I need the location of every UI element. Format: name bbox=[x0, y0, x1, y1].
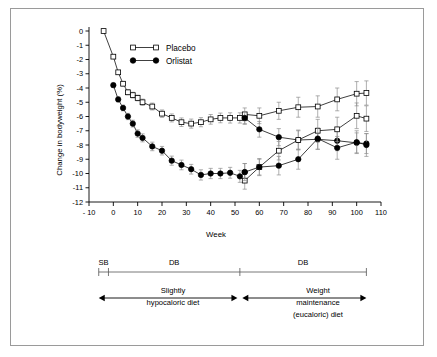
series-placebo-placebo-year-2 bbox=[242, 81, 368, 124]
series-orlistat-orlistat-year-2 bbox=[242, 128, 369, 181]
data-point bbox=[160, 111, 165, 116]
data-point bbox=[189, 167, 194, 172]
data-point bbox=[130, 121, 135, 126]
data-point bbox=[208, 171, 213, 176]
y-tick-label: -10 bbox=[72, 169, 83, 178]
data-point bbox=[116, 70, 121, 75]
x-tick-label: 70 bbox=[280, 208, 288, 217]
x-axis-label: Week bbox=[206, 230, 226, 239]
diet-right-line3: (eucaloric) diet bbox=[293, 310, 344, 319]
diet-left-line2: hypocaloric diet bbox=[147, 298, 201, 307]
data-point bbox=[335, 127, 340, 132]
data-point bbox=[159, 148, 164, 153]
x-tick-labels: - 100102030405060708090100110 bbox=[83, 202, 387, 217]
phase-label-db-2: DB bbox=[298, 258, 309, 267]
y-tick-labels: 0-1-2-3-4-5-6-7-8-9-10-11-12 bbox=[72, 27, 89, 207]
data-point bbox=[276, 163, 281, 168]
x-tick-label: 90 bbox=[328, 208, 336, 217]
data-point bbox=[354, 91, 359, 96]
data-point bbox=[140, 135, 145, 140]
data-point bbox=[140, 100, 145, 105]
x-tick-label: 20 bbox=[158, 208, 166, 217]
data-point bbox=[237, 174, 242, 179]
diet-right-line1: Weight bbox=[306, 286, 330, 295]
data-point bbox=[189, 121, 194, 126]
data-point bbox=[364, 116, 369, 121]
data-point bbox=[276, 108, 281, 113]
y-tick-label: -9 bbox=[76, 155, 83, 164]
y-tick-label: -3 bbox=[76, 69, 83, 78]
phase-label-sb-0: SB bbox=[99, 258, 109, 267]
legend-marker-placebo-2 bbox=[154, 45, 159, 50]
diet-left-line1: Slightly bbox=[161, 286, 186, 295]
data-point bbox=[354, 113, 359, 118]
data-point bbox=[242, 169, 247, 174]
x-tick-label: 50 bbox=[231, 208, 239, 217]
legend-marker-orlistat bbox=[130, 58, 136, 64]
chart-legend: Placebo Orlistat bbox=[130, 44, 196, 66]
x-tick-label: 30 bbox=[182, 208, 190, 217]
data-point bbox=[121, 81, 126, 86]
data-point bbox=[101, 29, 106, 34]
data-point bbox=[228, 116, 233, 121]
data-point bbox=[364, 142, 369, 147]
data-point bbox=[150, 144, 155, 149]
data-point bbox=[315, 136, 320, 141]
data-point bbox=[296, 138, 301, 143]
data-point bbox=[135, 131, 140, 136]
y-axis-label: Change in bodyweight (%) bbox=[55, 84, 64, 176]
y-tick-label: -11 bbox=[73, 183, 83, 192]
y-tick-label: -12 bbox=[72, 198, 83, 207]
y-tick-label: -6 bbox=[76, 112, 83, 121]
diet-right-line2: maintenance bbox=[296, 298, 339, 307]
data-point bbox=[169, 158, 174, 163]
data-point bbox=[179, 162, 184, 167]
phase-label-db-1: DB bbox=[169, 258, 180, 267]
x-tick-label: - 10 bbox=[83, 208, 96, 217]
chart-series-group bbox=[101, 29, 369, 190]
data-point bbox=[257, 113, 262, 118]
data-point bbox=[198, 172, 203, 177]
legend-label-placebo: Placebo bbox=[166, 44, 196, 53]
data-point bbox=[135, 96, 140, 101]
data-point bbox=[125, 114, 130, 119]
data-point bbox=[179, 120, 184, 125]
data-point bbox=[130, 93, 135, 98]
x-tick-label: 0 bbox=[111, 208, 115, 217]
data-point bbox=[218, 116, 223, 121]
data-point bbox=[237, 116, 242, 121]
legend-marker-placebo bbox=[131, 45, 136, 50]
data-point bbox=[335, 97, 340, 102]
legend-marker-orlistat-2 bbox=[153, 58, 159, 64]
data-point bbox=[111, 54, 116, 59]
legend-label-orlistat: Orlistat bbox=[166, 57, 193, 66]
chart-axes bbox=[89, 27, 381, 202]
data-point bbox=[208, 117, 213, 122]
data-point bbox=[335, 145, 340, 150]
y-tick-label: -1 bbox=[76, 41, 83, 50]
x-tick-label: 40 bbox=[207, 208, 215, 217]
data-point bbox=[296, 157, 301, 162]
figure-stage: Change in bodyweight (%) 0-1-2-3-4-5-6-7… bbox=[0, 0, 437, 357]
x-tick-label: 100 bbox=[350, 208, 362, 217]
data-point bbox=[354, 139, 359, 144]
y-tick-label: -5 bbox=[76, 98, 83, 107]
data-point bbox=[315, 104, 320, 109]
y-tick-label: -8 bbox=[76, 141, 83, 150]
y-tick-label: -2 bbox=[76, 55, 83, 64]
y-tick-label: 0 bbox=[79, 27, 83, 36]
data-point bbox=[218, 171, 223, 176]
data-point bbox=[257, 127, 262, 132]
weight-change-chart: Change in bodyweight (%) 0-1-2-3-4-5-6-7… bbox=[0, 0, 437, 357]
x-tick-label: 80 bbox=[304, 208, 312, 217]
data-point bbox=[242, 115, 247, 120]
data-point bbox=[276, 134, 281, 139]
data-point bbox=[296, 105, 301, 110]
data-point bbox=[169, 116, 174, 121]
data-point bbox=[120, 105, 125, 110]
data-point bbox=[364, 91, 369, 96]
data-point bbox=[126, 90, 131, 95]
y-tick-label: -4 bbox=[76, 84, 83, 93]
x-tick-label: 10 bbox=[134, 208, 142, 217]
data-point bbox=[116, 97, 121, 102]
